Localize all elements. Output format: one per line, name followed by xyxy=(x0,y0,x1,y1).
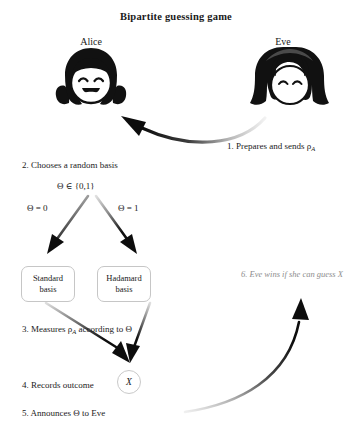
step-3-text-post: according to Θ xyxy=(76,324,132,334)
diagram-canvas: Bipartite guessing game Alice Eve 1. Pre… xyxy=(0,0,352,439)
step-1-subscript: A xyxy=(311,145,315,152)
alice-face-pigtails-icon xyxy=(56,48,126,105)
label-alice: Alice xyxy=(63,36,119,48)
curved-arrow-eve-to-alice xyxy=(121,116,265,142)
curved-arrow-alice-to-eve xyxy=(185,298,309,412)
outcome-x-symbol: X xyxy=(126,377,132,387)
step-3-label: 3. Measures ρA according to Θ xyxy=(22,324,132,335)
label-eve: Eve xyxy=(255,36,311,48)
box-hadamard-basis-label: Hadamardbasis xyxy=(106,273,141,296)
diagram-graphics-layer xyxy=(0,0,352,439)
step-3-text-pre: 3. Measures ρ xyxy=(22,324,72,334)
branch-label-theta-1: Θ = 1 xyxy=(118,203,139,213)
step-4-label: 4. Records outcome xyxy=(22,380,94,390)
step-5-label: 5. Announces Θ to Eve xyxy=(22,408,105,418)
box-standard-basis-label: Standardbasis xyxy=(33,273,63,296)
eve-face-longhair-icon xyxy=(250,47,329,105)
theta-domain-label: Θ ∈ {0,1} xyxy=(57,181,95,191)
box-standard-basis[interactable]: Standardbasis xyxy=(21,266,75,302)
step-1-label: 1. Prepares and sends ρA xyxy=(227,141,315,152)
box-hadamard-basis[interactable]: Hadamardbasis xyxy=(97,266,151,302)
arrow-to-standard-basis xyxy=(47,196,88,254)
page-title: Bipartite guessing game xyxy=(0,11,352,23)
step-2-label: 2. Chooses a random basis xyxy=(22,160,118,170)
step-6-label: 6. Eve wins if she can guess X xyxy=(240,268,344,280)
step-1-text: 1. Prepares and sends ρ xyxy=(227,141,311,151)
outcome-x-node: X xyxy=(117,370,141,394)
branch-label-theta-0: Θ = 0 xyxy=(27,203,48,213)
